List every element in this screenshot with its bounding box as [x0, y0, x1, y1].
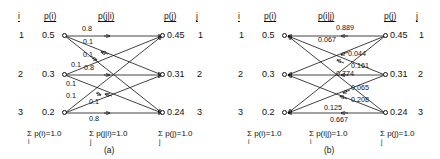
panel-b-left-index-1: 1 — [239, 31, 244, 40]
panel-b-edge-label-7: 0.208 — [351, 96, 369, 103]
panel-a-edge-label-1: 0.8 — [82, 25, 92, 32]
panel-a-sum-left-sub: i — [28, 139, 29, 146]
panel-b-header-p-j: p(j) — [384, 12, 396, 21]
panel-a-right-value-2: 0.31 — [167, 70, 185, 79]
panel-a-header-p-j: p(j) — [164, 12, 176, 21]
panel-a-header-p-i: p(i) — [44, 12, 56, 21]
panel-b-sink-node-2 — [383, 72, 388, 77]
panel-a-source-node-2 — [62, 72, 67, 77]
panel-a-edge-label-9: 0.8 — [89, 115, 99, 122]
panel-b-header-i: i — [238, 12, 240, 21]
panel-a-edge-label-5: 0.8 — [84, 64, 94, 71]
panel-b-right-index-1: 1 — [419, 31, 424, 40]
panel-a: i p(i) p(j|i) p(j) j 1 2 3 0.5 0.3 0.2 0… — [0, 0, 220, 159]
panel-b-sum-left: Σ p(i)=1.0 i — [247, 130, 282, 138]
panel-b-sum-mid-text: Σ p(i|j)=1.0 — [309, 129, 347, 138]
panel-a-sum-mid: Σ p(j|i)=1.0 j — [89, 130, 127, 138]
panel-a-header-p-cond: p(j|i) — [98, 12, 114, 21]
panel-b-header-j: j — [416, 12, 418, 21]
panel-a-left-index-3: 3 — [18, 108, 23, 117]
panel-a-sum-right-sub: j — [159, 139, 160, 146]
panel-a-sink-node-1 — [160, 33, 165, 38]
panel-b-left-value-3: 0.2 — [262, 108, 275, 117]
panel-b-source-node-1 — [282, 33, 287, 38]
panel-a-sum-right-text: Σ p(j)=1.0 — [158, 129, 193, 138]
panel-a-edge-label-2: 0.1 — [83, 38, 93, 45]
panel-a-source-node-1 — [62, 33, 67, 38]
panel-b-sum-right-sub: j — [381, 139, 382, 146]
panel-a-source-node-3 — [62, 110, 67, 115]
panel-b-source-node-3 — [282, 110, 287, 115]
panel-a-sink-node-3 — [160, 110, 165, 115]
panel-b-sum-right-text: Σ p(j)=1.0 — [380, 129, 415, 138]
panel-a-sum-right: Σ p(j)=1.0 j — [158, 130, 193, 138]
panel-a-sum-left: Σ p(i)=1.0 i — [27, 130, 62, 138]
panel-b-sum-left-sub: i — [248, 139, 249, 146]
panel-b-header-p-cond: p(i|j) — [318, 12, 334, 21]
panel-b-edge-label-5: 0.774 — [336, 70, 354, 77]
panel-a-edge-label-7: 0.1 — [66, 92, 76, 99]
panel-b-edge-label-8: 0.125 — [324, 104, 342, 111]
panel-a-header-i: i — [18, 12, 20, 21]
panel-a-caption: (a) — [104, 146, 114, 155]
panel-a-header-j: j — [196, 12, 198, 21]
panel-a-right-index-2: 2 — [197, 70, 202, 79]
panel-b-left-index-3: 3 — [238, 108, 243, 117]
panel-b-edge-label-6: 0.065 — [351, 84, 369, 91]
panel-b-edge-label-1: 0.889 — [336, 24, 354, 31]
panel-a-left-index-1: 1 — [19, 31, 24, 40]
panel-a-left-index-2: 2 — [18, 70, 23, 79]
panel-b-edge-label-9: 0.667 — [330, 116, 348, 123]
panel-b-sink-node-1 — [383, 33, 388, 38]
panel-b-source-node-2 — [282, 72, 287, 77]
panel-a-edge-label-8: 0.1 — [89, 98, 99, 105]
panel-a-edge-label-3: 0.1 — [83, 51, 93, 58]
panel-b-sum-right: Σ p(j)=1.0 j — [380, 130, 415, 138]
panel-b-sum-mid: Σ p(i|j)=1.0 i — [309, 130, 347, 138]
panel-a-edge-label-4: 0.1 — [71, 61, 81, 68]
panel-b-right-value-3: 0.24 — [390, 108, 408, 117]
panel-b-right-index-3: 3 — [418, 108, 423, 117]
panel-a-left-value-1: 0.5 — [42, 31, 55, 40]
panel-b-left-value-2: 0.3 — [262, 70, 275, 79]
panel-b-sink-node-3 — [383, 110, 388, 115]
panel-a-right-index-3: 3 — [197, 108, 202, 117]
panel-b-right-value-1: 0.45 — [390, 31, 408, 40]
panel-b-right-value-2: 0.31 — [390, 70, 408, 79]
panel-a-right-index-1: 1 — [198, 31, 203, 40]
panel-b-sum-mid-sub: i — [310, 139, 311, 146]
panel-b-caption: (b) — [324, 146, 334, 155]
figure-root: i p(i) p(j|i) p(j) j 1 2 3 0.5 0.3 0.2 0… — [0, 0, 440, 159]
panel-a-sum-mid-sub: j — [90, 139, 91, 146]
panel-b-edge-label-2: 0.067 — [318, 36, 336, 43]
panel-a-edge-label-6: 0.1 — [66, 80, 76, 87]
panel-a-sum-mid-text: Σ p(j|i)=1.0 — [89, 129, 127, 138]
panel-b-left-value-1: 0.5 — [262, 31, 275, 40]
panel-a-right-value-1: 0.45 — [167, 31, 185, 40]
panel-a-left-value-3: 0.2 — [42, 108, 55, 117]
panel-a-left-value-2: 0.3 — [42, 70, 55, 79]
panel-a-sink-node-2 — [160, 72, 165, 77]
panel-b-right-index-2: 2 — [418, 70, 423, 79]
panel-b-left-index-2: 2 — [238, 70, 243, 79]
panel-a-right-value-3: 0.24 — [167, 108, 185, 117]
panel-b-sum-left-text: Σ p(i)=1.0 — [247, 129, 282, 138]
panel-b-edge-label-3: 0.044 — [348, 50, 366, 57]
panel-a-sum-left-text: Σ p(i)=1.0 — [27, 129, 62, 138]
panel-b: i p(i) p(i|j) p(j) j 1 2 3 0.5 0.3 0.2 0… — [220, 0, 440, 159]
panel-b-header-p-i: p(i) — [264, 12, 276, 21]
